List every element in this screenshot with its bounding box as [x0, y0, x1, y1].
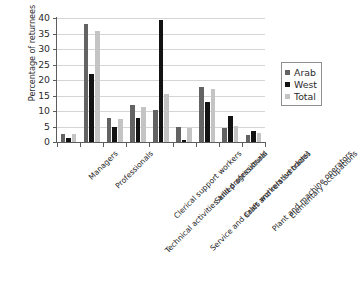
bar-west [205, 102, 210, 142]
bar-total [72, 134, 77, 142]
bar-groups [57, 18, 265, 142]
legend-label: Total [294, 91, 316, 102]
bar-total [234, 126, 239, 142]
bar-west [159, 20, 164, 142]
bar-total [187, 128, 192, 142]
bar-group [57, 18, 80, 142]
bar-west [136, 118, 141, 142]
bar-west [228, 116, 233, 142]
bar-arab [199, 87, 204, 142]
legend-swatch-icon [285, 82, 290, 87]
bar-total [95, 31, 100, 142]
bar-arab [61, 134, 66, 142]
x-label-professionals: Professionals [114, 149, 155, 190]
legend-item: Arab [285, 66, 317, 78]
y-tick-label: 5 [44, 121, 50, 132]
bar-group [196, 18, 219, 142]
x-label-managers: Managers [87, 149, 120, 182]
bar-group [126, 18, 149, 142]
y-tick-label: 20 [38, 74, 50, 85]
legend-swatch-icon [285, 94, 290, 99]
bar-total [211, 89, 216, 142]
x-axis-category-labels: ManagersProfessionalsTechnical activitie… [0, 147, 341, 287]
bar-total [118, 119, 123, 142]
bar-arab [130, 105, 135, 142]
bar-arab [222, 128, 227, 142]
plot-area [57, 18, 265, 142]
bar-total [141, 107, 146, 142]
chart-legend: ArabWestTotal [281, 62, 322, 106]
figure-caption [8, 291, 338, 298]
legend-item: West [285, 78, 317, 90]
bar-arab [176, 127, 181, 142]
bar-group [242, 18, 265, 142]
bar-arab [246, 135, 251, 142]
bar-group [149, 18, 172, 142]
bar-west [89, 74, 94, 143]
bar-total [257, 133, 262, 142]
bar-group [103, 18, 126, 142]
bar-arab [107, 118, 112, 142]
y-axis-ticks: 0510152025303540 [0, 18, 57, 142]
y-tick-label: 25 [38, 59, 50, 70]
bar-arab [84, 24, 89, 142]
legend-item: Total [285, 90, 317, 102]
bar-arab [153, 110, 158, 142]
y-tick-label: 40 [38, 12, 50, 23]
bar-total [164, 94, 169, 142]
bar-west [112, 127, 117, 142]
y-tick-label: 15 [38, 90, 50, 101]
legend-swatch-icon [285, 70, 290, 75]
y-tick-label: 10 [38, 105, 50, 116]
y-tick-label: 35 [38, 28, 50, 39]
legend-label: West [294, 79, 317, 90]
legend-label: Arab [294, 67, 316, 78]
y-tick-label: 30 [38, 43, 50, 54]
bar-group [80, 18, 103, 142]
bar-group [219, 18, 242, 142]
bar-group [173, 18, 196, 142]
y-tick-label: 0 [44, 136, 50, 147]
bar-west [251, 131, 256, 142]
